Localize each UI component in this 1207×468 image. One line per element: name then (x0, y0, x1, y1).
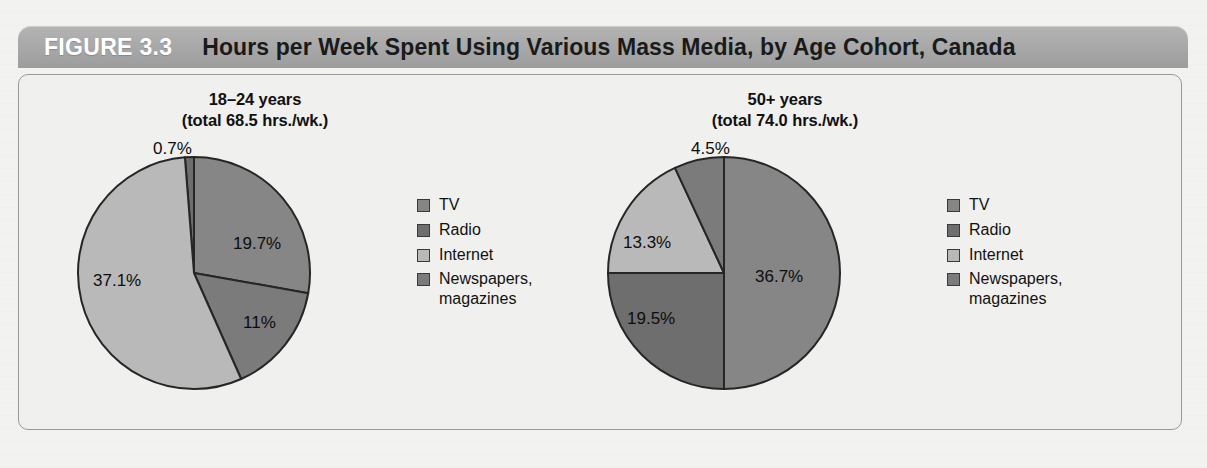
legend-item-label: TV (969, 195, 989, 215)
slice-value-label-tv: 19.7% (233, 234, 281, 254)
slice-value-label-radio: 0.7% (153, 139, 192, 159)
figure-container: FIGURE 3.3 Hours per Week Spent Using Va… (18, 26, 1188, 436)
legend-item-radio[interactable]: Radio (947, 220, 1122, 240)
slice-value-label-newspapers: 11% (243, 313, 276, 333)
pie-svg (587, 137, 887, 412)
slice-value-label-radio: 19.5% (627, 309, 675, 329)
pie-slice-radio[interactable] (608, 273, 724, 389)
chart-title-18-24: 18–24 years(total 68.5 hrs./wk.) (45, 89, 465, 131)
chart-title-50-plus: 50+ years(total 74.0 hrs./wk.) (575, 89, 995, 131)
legend-18-24: TVRadioInternetNewspapers,magazines (417, 195, 592, 314)
legend-item-internet[interactable]: Internet (417, 245, 592, 265)
pie-canvas-18-24: 0.7%19.7%11%37.1% (57, 137, 357, 412)
legend-50-plus: TVRadioInternetNewspapers,magazines (947, 195, 1122, 314)
legend-swatch-icon (947, 249, 960, 262)
legend-swatch-icon (947, 224, 960, 237)
figure-title: Hours per Week Spent Using Various Mass … (202, 34, 1015, 61)
pie-canvas-50-plus: 36.7%19.5%13.3%4.5% (587, 137, 887, 412)
legend-item-tv[interactable]: TV (417, 195, 592, 215)
legend-item-radio[interactable]: Radio (417, 220, 592, 240)
legend-item-newspapers[interactable]: Newspapers,magazines (947, 269, 1122, 309)
slice-value-label-internet: 13.3% (623, 233, 671, 253)
legend-item-label: Newspapers,magazines (439, 269, 532, 309)
figure-panel: 18–24 years(total 68.5 hrs./wk.) 0.7%19.… (18, 74, 1182, 430)
pie-chart-50-plus: 50+ years(total 74.0 hrs./wk.) 36.7%19.5… (575, 75, 1135, 431)
figure-header-bar: FIGURE 3.3 Hours per Week Spent Using Va… (18, 26, 1188, 68)
legend-item-label: Internet (969, 245, 1023, 265)
slice-value-label-tv: 36.7% (755, 267, 803, 287)
figure-number-label: FIGURE 3.3 (44, 34, 172, 61)
legend-item-newspapers[interactable]: Newspapers,magazines (417, 269, 592, 309)
legend-item-label: Internet (439, 245, 493, 265)
legend-swatch-icon (417, 224, 430, 237)
pie-chart-18-24: 18–24 years(total 68.5 hrs./wk.) 0.7%19.… (45, 75, 585, 431)
legend-swatch-icon (417, 249, 430, 262)
legend-swatch-icon (417, 199, 430, 212)
legend-swatch-icon (417, 273, 430, 286)
legend-swatch-icon (947, 273, 960, 286)
pie-slice-tv[interactable] (194, 157, 310, 293)
legend-item-internet[interactable]: Internet (947, 245, 1122, 265)
legend-item-label: Newspapers,magazines (969, 269, 1062, 309)
slice-value-label-internet: 37.1% (93, 271, 141, 291)
legend-item-label: Radio (439, 220, 481, 240)
legend-swatch-icon (947, 199, 960, 212)
slice-value-label-newspapers: 4.5% (691, 139, 730, 159)
legend-item-label: TV (439, 195, 459, 215)
legend-item-label: Radio (969, 220, 1011, 240)
legend-item-tv[interactable]: TV (947, 195, 1122, 215)
